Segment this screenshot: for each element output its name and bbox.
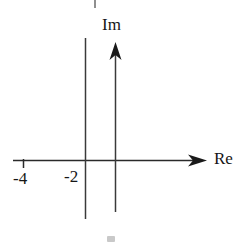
top-edge-scan-artifact bbox=[94, 0, 96, 8]
real-axis-label: Re bbox=[214, 150, 233, 167]
tick-label-neg2: -2 bbox=[64, 168, 78, 185]
complex-plane-figure: Im Re -4 -2 bbox=[0, 0, 245, 242]
bottom-edge-scan-artifact bbox=[107, 236, 115, 242]
plot-canvas bbox=[0, 0, 245, 242]
tick-label-neg4: -4 bbox=[13, 170, 27, 187]
imaginary-axis-label: Im bbox=[102, 16, 121, 33]
